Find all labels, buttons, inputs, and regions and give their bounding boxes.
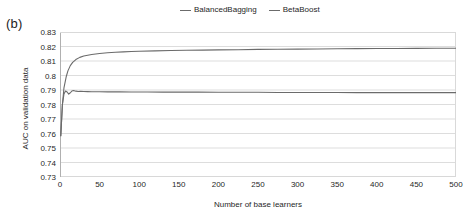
- legend-line-swatch-balancedbagging: [180, 10, 191, 11]
- x-tick-label-100: 100: [133, 180, 146, 189]
- y-tick-label-0.73: 0.73: [40, 173, 56, 182]
- series-line-betaboost: [61, 91, 456, 136]
- x-axis-title: Number of base learners: [60, 200, 456, 209]
- y-tick-label-0.78: 0.78: [40, 100, 56, 109]
- legend-line-swatch-betaboost: [269, 10, 280, 11]
- y-tick-label-0.8: 0.8: [45, 71, 56, 80]
- y-axis-tick-labels: 0.730.740.750.760.770.780.790.80.810.820…: [28, 32, 56, 177]
- x-tick-label-150: 150: [172, 180, 185, 189]
- x-tick-label-500: 500: [449, 180, 462, 189]
- x-tick-label-450: 450: [410, 180, 423, 189]
- y-tick-label-0.76: 0.76: [40, 129, 56, 138]
- y-tick-label-0.75: 0.75: [40, 144, 56, 153]
- plot-area: [60, 32, 456, 177]
- y-tick-label-0.83: 0.83: [40, 28, 56, 37]
- legend-entry-betaboost: BetaBoost: [269, 6, 320, 14]
- y-tick-label-0.74: 0.74: [40, 158, 56, 167]
- x-tick-label-350: 350: [331, 180, 344, 189]
- x-tick-label-200: 200: [212, 180, 225, 189]
- x-tick-label-50: 50: [95, 180, 104, 189]
- x-tick-label-300: 300: [291, 180, 304, 189]
- y-tick-label-0.77: 0.77: [40, 115, 56, 124]
- chart-legend: BalancedBagging BetaBoost: [180, 6, 320, 14]
- panel-label: (b): [6, 16, 23, 31]
- legend-label-betaboost: BetaBoost: [283, 6, 320, 14]
- legend-entry-balancedbagging: BalancedBagging: [180, 6, 257, 14]
- x-tick-label-400: 400: [370, 180, 383, 189]
- legend-label-balancedbagging: BalancedBagging: [194, 6, 257, 14]
- y-tick-label-0.81: 0.81: [40, 57, 56, 66]
- plot-svg: [60, 32, 456, 177]
- figure-panel-b: (b) BalancedBagging BetaBoost AUC on val…: [0, 0, 468, 221]
- x-axis-tick-labels: 050100150200250300350400450500: [60, 180, 456, 194]
- y-tick-label-0.79: 0.79: [40, 86, 56, 95]
- y-tick-label-0.82: 0.82: [40, 42, 56, 51]
- x-tick-label-0: 0: [58, 180, 62, 189]
- x-tick-label-250: 250: [251, 180, 264, 189]
